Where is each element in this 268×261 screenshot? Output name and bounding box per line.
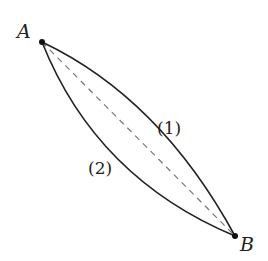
point-b-label: B: [239, 233, 254, 255]
path-2-label: (2): [88, 158, 112, 178]
point-a-dot: [39, 39, 45, 45]
chord-dashed-line: [42, 42, 235, 236]
point-a-label: A: [15, 20, 31, 42]
point-b-dot: [232, 233, 238, 239]
path-diagram: A B (1) (2): [0, 0, 268, 261]
path-1-label: (1): [157, 118, 181, 138]
